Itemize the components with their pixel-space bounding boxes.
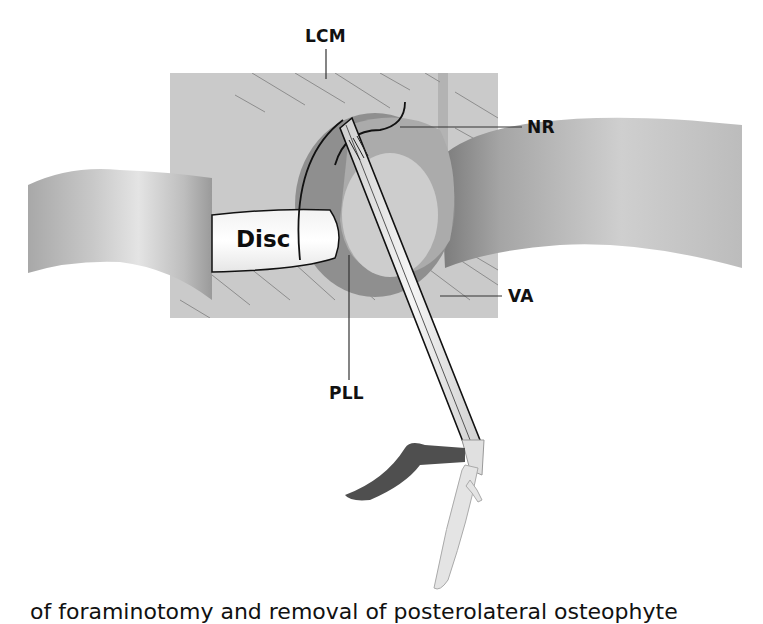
dark-handle bbox=[345, 443, 465, 500]
left-band bbox=[28, 169, 212, 300]
label-nr: NR bbox=[527, 117, 555, 137]
label-va: VA bbox=[508, 286, 534, 306]
label-disc: Disc bbox=[236, 226, 290, 252]
label-lcm: LCM bbox=[305, 26, 346, 46]
label-pll: PLL bbox=[329, 383, 364, 403]
right-band bbox=[440, 118, 742, 268]
figure-caption: of foraminotomy and removal of posterola… bbox=[30, 601, 678, 623]
